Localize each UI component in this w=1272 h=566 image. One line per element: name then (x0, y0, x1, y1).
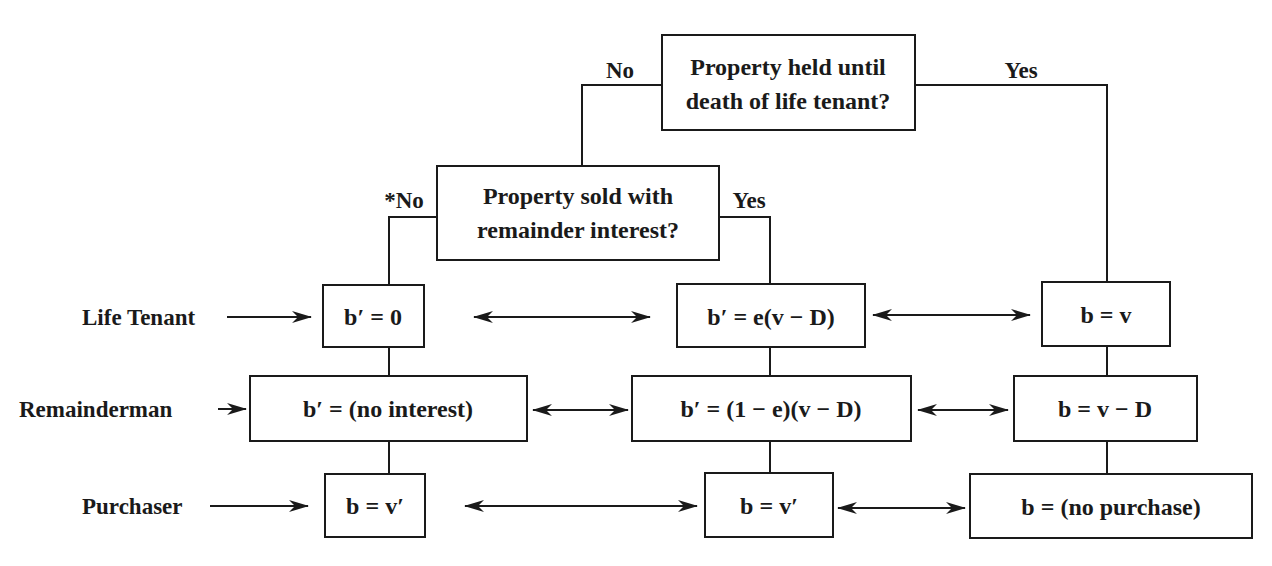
top-yes-branch-line (915, 85, 1107, 285)
outcome-no-sale-life-tenant: b′ = 0 (323, 285, 424, 347)
top-yes-label: Yes (1004, 58, 1037, 83)
middle-no-branch-line (389, 217, 437, 285)
decision-sold-with-remainder: Property sold with remainder interest? (437, 166, 719, 260)
svg-text:b′ = (no interest): b′ = (no interest) (303, 396, 473, 422)
row-label-remainderman: Remainderman (19, 397, 173, 422)
svg-text:b = v − D: b = v − D (1058, 396, 1152, 422)
row-label-life-tenant: Life Tenant (82, 305, 195, 330)
outcome-no-sale-remainderman: b′ = (no interest) (250, 376, 527, 441)
row-label-purchaser: Purchaser (82, 494, 183, 519)
decision-text-line2: remainder interest? (477, 217, 679, 243)
svg-text:b′ = (1 − e)(v − D): b′ = (1 − e)(v − D) (680, 396, 861, 422)
svg-text:b′ = e(v − D): b′ = e(v − D) (707, 304, 834, 330)
top-no-branch-line (582, 85, 662, 166)
outcome-sold-remainderman: b′ = (1 − e)(v − D) (632, 376, 911, 441)
middle-yes-label: Yes (732, 188, 765, 213)
top-no-label: No (606, 58, 634, 83)
decision-text-line1: Property held until (690, 54, 886, 80)
svg-text:b = v′: b = v′ (740, 493, 798, 519)
outcome-sold-life-tenant: b′ = e(v − D) (677, 284, 865, 347)
decision-text-line1: Property sold with (483, 183, 673, 209)
svg-text:b = (no purchase): b = (no purchase) (1021, 494, 1200, 520)
svg-text:b = v: b = v (1080, 302, 1131, 328)
svg-text:b′ = 0: b′ = 0 (344, 304, 402, 330)
outcome-held-remainderman: b = v − D (1014, 376, 1197, 441)
outcome-held-life-tenant: b = v (1042, 282, 1170, 346)
middle-yes-branch-line (719, 217, 770, 285)
svg-text:b = v′: b = v′ (346, 493, 404, 519)
middle-no-label: *No (384, 188, 424, 213)
outcome-held-purchaser: b = (no purchase) (970, 474, 1252, 538)
decision-held-until-death: Property held until death of life tenant… (662, 35, 915, 130)
decision-text-line2: death of life tenant? (686, 88, 891, 114)
outcome-no-sale-purchaser: b = v′ (325, 474, 425, 537)
life-estate-flowchart: Property held until death of life tenant… (0, 0, 1272, 566)
outcome-sold-purchaser: b = v′ (705, 473, 833, 537)
